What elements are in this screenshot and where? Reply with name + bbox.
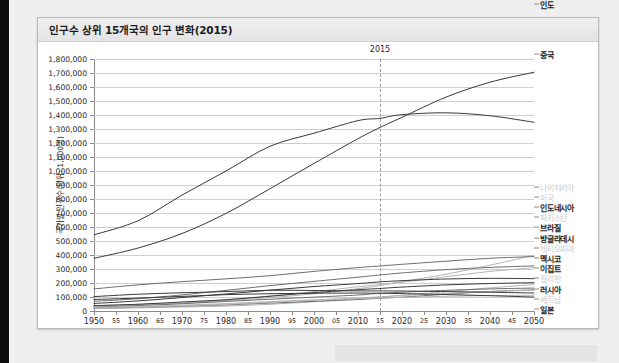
x-axis-label: 1990 <box>260 317 280 326</box>
x-axis-tick <box>468 311 469 315</box>
legend-tick <box>534 196 539 197</box>
x-axis-label: 25 <box>420 317 428 325</box>
chart-title: 인구수 상위 15개국의 인구 변화(2015) <box>49 22 232 37</box>
x-axis-tick <box>270 311 271 315</box>
x-axis-tick <box>94 311 95 315</box>
screenshot-root: 인구수 상위 15개국의 인구 변화(2015) 국가별 인구수(단위: 1,0… <box>0 0 619 363</box>
chart-panel: 인구수 상위 15개국의 인구 변화(2015) 국가별 인구수(단위: 1,0… <box>37 17 599 329</box>
x-axis-label: 95 <box>288 317 296 325</box>
legend-item-일본: 일본 <box>540 304 554 315</box>
y-axis-label: 1,200,000 <box>48 139 87 148</box>
x-axis-tick <box>116 311 117 315</box>
x-axis-label: 65 <box>156 317 164 325</box>
y-axis-label: 200,000 <box>56 279 87 288</box>
legend-tick <box>534 3 539 4</box>
x-axis-label: 2050 <box>524 317 544 326</box>
y-axis-label: 1,500,000 <box>48 97 87 106</box>
y-axis-label: 100,000 <box>56 293 87 302</box>
series-line <box>94 113 534 235</box>
x-axis-label: 35 <box>464 317 472 325</box>
y-axis-label: 400,000 <box>56 251 87 260</box>
legend-tick <box>534 278 539 279</box>
legend-item-중국: 중국 <box>540 48 554 59</box>
x-axis-tick <box>534 311 535 315</box>
x-axis-tick <box>380 311 381 315</box>
y-axis-label: 800,000 <box>56 195 87 204</box>
x-axis-tick <box>512 311 513 315</box>
x-axis-label: 15 <box>376 317 384 325</box>
x-axis-tick <box>292 311 293 315</box>
x-axis-tick <box>446 311 447 315</box>
x-axis-label: 1980 <box>216 317 236 326</box>
legend-tick <box>534 247 539 248</box>
legend-tick <box>534 217 539 218</box>
y-axis-label: 1,700,000 <box>48 69 87 78</box>
x-axis-tick <box>336 311 337 315</box>
y-axis-label: 1,100,000 <box>48 153 87 162</box>
y-axis-label: 1,800,000 <box>48 55 87 64</box>
legend-tick <box>534 298 539 299</box>
x-axis-tick <box>138 311 139 315</box>
y-axis-label: 0 <box>82 307 87 316</box>
x-axis-label: 1960 <box>128 317 148 326</box>
legend-tick <box>534 207 539 208</box>
y-axis-label: 1,400,000 <box>48 111 87 120</box>
legend-tick <box>534 227 539 228</box>
y-axis-label: 600,000 <box>56 223 87 232</box>
x-axis-tick <box>358 311 359 315</box>
document-page: 인구수 상위 15개국의 인구 변화(2015) 국가별 인구수(단위: 1,0… <box>13 0 619 363</box>
x-axis-tick <box>182 311 183 315</box>
x-axis-label: 2020 <box>392 317 412 326</box>
y-axis-label: 700,000 <box>56 209 87 218</box>
legend: 인도중국나이지리아미국인도네시아파키스탄브라질방글라데시에티오피아멕시코이집트필… <box>540 59 598 311</box>
series-line <box>94 72 534 258</box>
legend-tick <box>534 186 539 187</box>
y-axis-label: 1,300,000 <box>48 125 87 134</box>
x-axis-label: 2030 <box>436 317 456 326</box>
scan-edge-bar <box>0 0 9 363</box>
series-lines <box>94 59 534 311</box>
y-axis-label: 300,000 <box>56 265 87 274</box>
x-axis-label: 85 <box>244 317 252 325</box>
legend-item-인도: 인도 <box>540 0 554 9</box>
x-axis-label: 1970 <box>172 317 192 326</box>
y-axis-label: 900,000 <box>56 181 87 190</box>
year-marker-label: 2015 <box>370 45 390 54</box>
page-bottom-strip <box>335 345 597 361</box>
x-axis-label: 2010 <box>348 317 368 326</box>
x-axis-tick <box>402 311 403 315</box>
x-axis-tick <box>160 311 161 315</box>
legend-tick <box>534 258 539 259</box>
y-axis-label: 1,600,000 <box>48 83 87 92</box>
x-axis-tick <box>204 311 205 315</box>
x-axis-label: 1950 <box>84 317 104 326</box>
x-axis-label: 75 <box>200 317 208 325</box>
x-axis-label: 05 <box>332 317 340 325</box>
y-axis-label: 500,000 <box>56 237 87 246</box>
x-axis-label: 2040 <box>480 317 500 326</box>
x-axis-tick <box>248 311 249 315</box>
legend-tick <box>534 237 539 238</box>
x-axis-label: 55 <box>112 317 120 325</box>
x-axis-label: 2000 <box>304 317 324 326</box>
legend-tick <box>534 309 539 310</box>
y-axis-label: 1,000,000 <box>48 167 87 176</box>
x-axis-tick <box>314 311 315 315</box>
x-axis-tick <box>490 311 491 315</box>
x-axis-tick <box>226 311 227 315</box>
legend-tick <box>534 53 539 54</box>
plot-area: 0100,000200,000300,000400,000500,000600,… <box>94 59 534 311</box>
x-axis-tick <box>424 311 425 315</box>
legend-tick <box>534 268 539 269</box>
legend-tick <box>534 288 539 289</box>
series-line <box>94 255 534 305</box>
x-axis-label: 45 <box>508 317 516 325</box>
